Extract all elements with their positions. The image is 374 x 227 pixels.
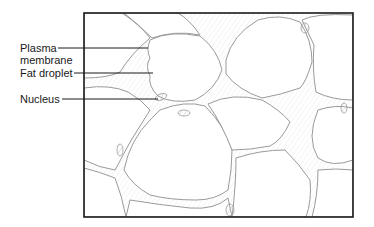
nucleus-shape	[301, 23, 309, 33]
nucleus-shape	[226, 204, 234, 216]
cell	[312, 106, 353, 163]
nucleus-shape	[117, 144, 123, 156]
tissue-drawing	[0, 0, 374, 227]
cell	[312, 169, 353, 217]
nucleus-shape	[341, 103, 347, 113]
cells-group	[84, 13, 353, 217]
nucleus-shape	[178, 110, 190, 116]
